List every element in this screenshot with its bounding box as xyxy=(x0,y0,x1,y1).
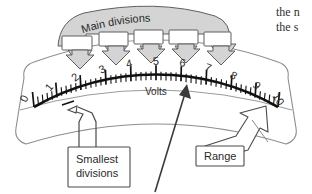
diagram-canvas: Main divisions xyxy=(0,0,312,194)
body-text-line-1: the n xyxy=(276,5,300,19)
body-text-line-2: the s xyxy=(276,20,299,34)
banner-notch-5 xyxy=(204,32,231,46)
tick-label-5: 5 xyxy=(152,55,159,67)
range-label: Range xyxy=(204,150,236,162)
body-text: the n the s xyxy=(276,5,300,34)
voltmeter-diagram-svg: Main divisions xyxy=(0,0,312,194)
smallest-divisions-label-line1: Smallest xyxy=(76,153,118,165)
major-tick-1 xyxy=(56,83,57,98)
banner-notch-3 xyxy=(134,30,163,44)
banner-notch-4 xyxy=(169,30,198,44)
banner-notch-2 xyxy=(99,32,128,46)
unit-label: Volts xyxy=(145,86,167,97)
smallest-divisions-label-line2: divisions xyxy=(76,167,119,179)
major-tick-2 xyxy=(80,75,81,90)
banner-notch-1 xyxy=(62,36,92,50)
